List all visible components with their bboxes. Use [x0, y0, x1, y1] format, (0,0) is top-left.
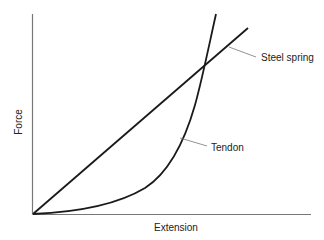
tendon-leader: [180, 138, 207, 146]
y-axis-label: Force: [13, 109, 24, 135]
steel-spring-label: Steel spring: [261, 52, 314, 63]
x-axis-label: Extension: [154, 222, 198, 233]
tendon-series: [33, 14, 216, 214]
tendon-label: Tendon: [211, 142, 244, 153]
steel-spring-leader: [229, 47, 256, 57]
force-extension-chart: Steel spring Tendon Extension Force: [0, 0, 324, 240]
steel-spring-series: [33, 28, 248, 214]
